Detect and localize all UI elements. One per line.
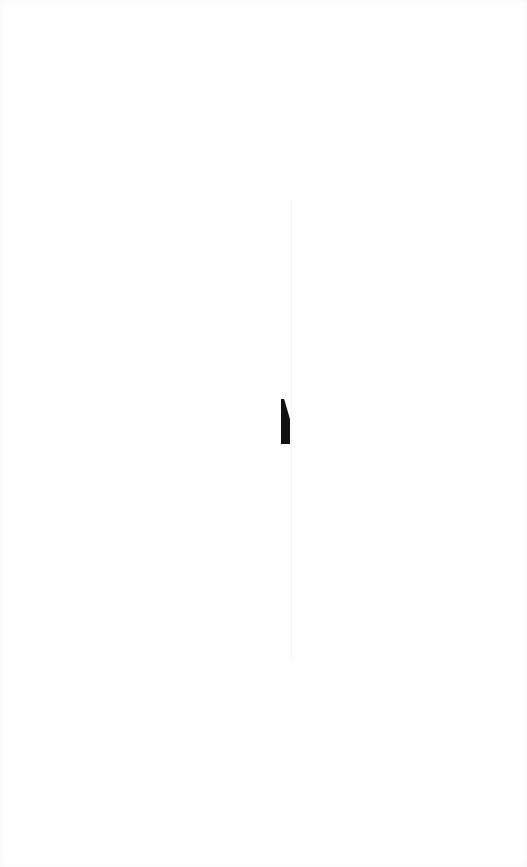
text-cursor-icon [281,399,290,444]
faint-divider [291,200,292,660]
blank-screen [0,0,527,867]
